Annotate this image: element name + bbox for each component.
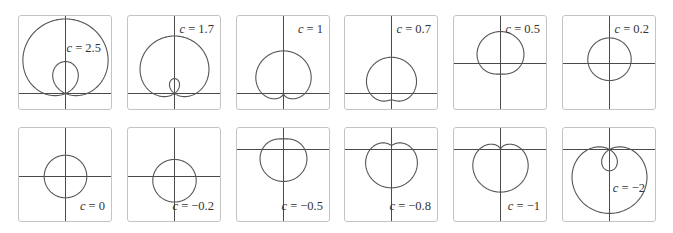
polar-plot-panel: c = −0.5 [236, 127, 330, 222]
polar-plot-panel: c = −1 [453, 127, 547, 222]
parameter-label: c = −0.2 [172, 200, 214, 213]
parameter-label: c = 2.5 [67, 42, 102, 55]
parameter-label: c = 0.7 [397, 23, 432, 36]
parameter-label: c = −1 [508, 200, 540, 213]
polar-plot-panel: c = 0.2 [562, 15, 656, 110]
parameter-value: = 1 [303, 22, 323, 36]
parameter-label: c = −0.8 [389, 200, 431, 213]
parameter-label: c = 0.2 [615, 23, 650, 36]
parameter-label: c = 1.7 [180, 23, 215, 36]
parameter-label: c = 1 [298, 23, 323, 36]
parameter-label: c = 0 [80, 200, 105, 213]
plot-area [19, 16, 112, 110]
parameter-label: c = 0.5 [506, 23, 541, 36]
parameter-value: = 0.5 [511, 22, 540, 36]
parameter-value: = −2 [618, 181, 645, 195]
parameter-label: c = −0.5 [281, 200, 323, 213]
parameter-value: = −1 [513, 199, 540, 213]
polar-plot-panel: c = 2.5 [18, 15, 112, 110]
polar-plot-panel: c = −0.2 [127, 127, 221, 222]
polar-plot-panel: c = 1 [236, 15, 330, 110]
parameter-value: = 0.2 [620, 22, 649, 36]
polar-plot-panel: c = −0.8 [344, 127, 438, 222]
polar-plot-panel: c = 1.7 [127, 15, 221, 110]
parameter-value: = 0.7 [402, 22, 431, 36]
polar-plot-panel: c = 0.7 [344, 15, 438, 110]
polar-plot-panel: c = 0 [18, 127, 112, 222]
parameter-value: = 1.7 [185, 22, 214, 36]
plot-area [563, 128, 656, 222]
parameter-value: = 2.5 [72, 41, 101, 55]
parameter-value: = −0.8 [395, 199, 431, 213]
parameter-value: = −0.5 [287, 199, 323, 213]
polar-plot-panel: c = −2 [562, 127, 656, 222]
parameter-label: c = −2 [613, 182, 645, 195]
parameter-value: = 0 [85, 199, 105, 213]
parameter-value: = −0.2 [178, 199, 214, 213]
polar-plot-panel: c = 0.5 [453, 15, 547, 110]
